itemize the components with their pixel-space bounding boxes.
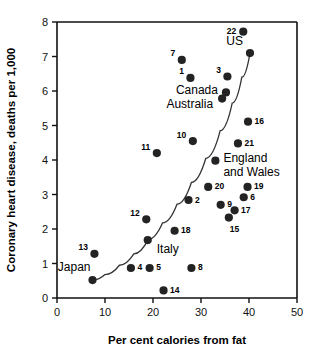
- x-tick-label: 30: [195, 306, 207, 318]
- data-point-marker[interactable]: [171, 227, 179, 235]
- point-number-label: 18: [181, 225, 191, 235]
- scatter-plot-figure: 012345678 01020304050 22US713CanadaAustr…: [0, 0, 317, 354]
- y-axis-title: Coronary heart disease, deaths per 1,000: [5, 48, 17, 272]
- point-number-label: 1: [179, 66, 184, 76]
- y-tick-label: 0: [42, 292, 48, 304]
- data-point-marker[interactable]: [211, 157, 219, 165]
- y-tick-label: 3: [42, 189, 48, 201]
- data-point-marker[interactable]: [159, 286, 167, 294]
- data-point-marker[interactable]: [204, 183, 212, 191]
- data-point-marker[interactable]: [246, 49, 254, 57]
- y-tick-label: 4: [42, 154, 48, 166]
- data-point-marker[interactable]: [189, 137, 197, 145]
- data-point-marker[interactable]: [223, 72, 231, 80]
- data-point-marker[interactable]: [146, 264, 154, 272]
- data-point-marker[interactable]: [218, 94, 226, 102]
- x-tick-label: 0: [54, 306, 60, 318]
- x-tick-label: 40: [243, 306, 255, 318]
- data-point-marker[interactable]: [234, 139, 242, 147]
- point-number-label: 7: [171, 48, 176, 58]
- data-point-marker[interactable]: [153, 149, 161, 157]
- point-number-label: 20: [215, 181, 225, 191]
- country-label: Japan: [58, 260, 91, 274]
- point-number-label: 21: [244, 138, 254, 148]
- data-point-marker[interactable]: [225, 214, 233, 222]
- point-number-label: 17: [241, 205, 251, 215]
- data-point-marker[interactable]: [127, 264, 135, 272]
- point-number-label: 10: [177, 130, 187, 140]
- point-number-label: 8: [198, 262, 203, 272]
- data-point-marker[interactable]: [231, 206, 239, 214]
- data-point-marker[interactable]: [217, 201, 225, 209]
- y-tick-label: 8: [42, 16, 48, 28]
- data-point-marker[interactable]: [142, 215, 150, 223]
- data-point-marker[interactable]: [184, 196, 192, 204]
- y-tick-label: 5: [42, 120, 48, 132]
- data-point-marker[interactable]: [243, 183, 251, 191]
- data-point-marker[interactable]: [90, 250, 98, 258]
- y-tick-label: 7: [42, 51, 48, 63]
- x-axis-title: Per cent calories from fat: [108, 334, 246, 346]
- point-number-label: 12: [130, 208, 140, 218]
- country-label: Australia: [166, 97, 213, 111]
- y-tick-label: 2: [42, 223, 48, 235]
- data-point-marker[interactable]: [144, 236, 152, 244]
- data-point-marker[interactable]: [244, 118, 252, 126]
- data-point-marker[interactable]: [187, 264, 195, 272]
- x-tick-label: 50: [291, 306, 303, 318]
- data-point-marker[interactable]: [178, 56, 186, 64]
- data-point-marker[interactable]: [88, 276, 96, 284]
- country-label: US: [226, 34, 243, 48]
- point-number-label: 19: [254, 181, 264, 191]
- point-number-label: 16: [255, 116, 265, 126]
- data-point-marker[interactable]: [240, 193, 248, 201]
- point-number-label: 6: [250, 192, 255, 202]
- chart-canvas: 012345678 01020304050 22US713CanadaAustr…: [0, 0, 317, 354]
- point-number-label: 5: [156, 262, 161, 272]
- point-number-label: 14: [170, 285, 180, 295]
- data-point-marker[interactable]: [186, 74, 194, 82]
- point-number-label: 15: [230, 224, 240, 234]
- x-tick-label: 20: [147, 306, 159, 318]
- y-tick-label: 1: [42, 258, 48, 270]
- point-number-label: 2: [195, 195, 200, 205]
- point-number-label: 13: [78, 242, 88, 252]
- point-number-label: 4: [137, 262, 142, 272]
- point-number-label: 3: [216, 65, 221, 75]
- country-label: Canada: [176, 83, 218, 97]
- x-tick-label: 10: [99, 306, 111, 318]
- country-label: Italy: [157, 242, 179, 256]
- point-number-label: 11: [141, 142, 150, 152]
- y-tick-label: 6: [42, 85, 48, 97]
